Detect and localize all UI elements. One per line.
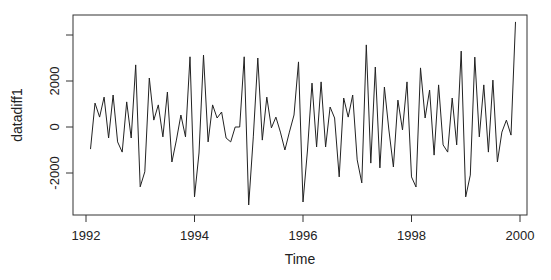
x-tick-label: 1994 (180, 228, 209, 243)
x-tick-label: 1996 (289, 228, 318, 243)
x-axis: 19921994199619982000 (72, 215, 535, 243)
x-tick-label: 2000 (506, 228, 535, 243)
time-series-chart: 19921994199619982000 -200002000 Time dat… (0, 0, 551, 280)
y-tick-label: 2000 (47, 67, 62, 96)
y-tick-label: -2000 (47, 156, 62, 189)
y-tick-label: 0 (47, 123, 62, 130)
x-tick-label: 1992 (72, 228, 101, 243)
y-axis-title: datadiff1 (9, 88, 25, 142)
x-axis-title: Time (285, 251, 316, 267)
data-line (91, 22, 516, 205)
x-tick-label: 1998 (397, 228, 426, 243)
y-axis: -200002000 (47, 35, 73, 190)
